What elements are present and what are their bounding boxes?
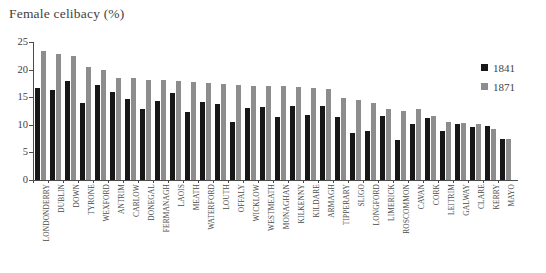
bar-cork-1841 [425,118,430,180]
x-axis-label: KILKENNY [297,184,306,223]
bar-cork-1871 [431,116,436,180]
bar-kerry-1871 [491,129,496,180]
bar-leitrim-1841 [440,131,445,180]
legend-swatch-icon [481,64,488,71]
x-axis-label-text: ANTRIM [116,184,127,214]
plot-area [33,42,513,180]
x-axis-label-text: MEATH [191,184,202,210]
bar-roscommon-1871 [401,111,406,180]
bar-kilkenny-1871 [296,87,301,180]
bar-tyrone-1871 [86,67,91,180]
x-axis-label-text: WESTMEATH [266,184,277,231]
x-tick-mark [168,180,169,183]
bar-monaghan-1841 [275,117,280,180]
x-axis-label: ROSCOMMON [402,184,411,234]
bar-tyrone-1841 [80,103,85,180]
bar-louth-1871 [221,84,226,180]
x-tick-mark [378,180,379,183]
x-axis-label-text: LONGFORD [371,184,382,225]
bar-dublin-1871 [56,54,61,180]
bar-group [275,42,290,180]
x-axis-label-text: OFFALY [236,184,247,212]
bar-dublin-1841 [50,90,55,180]
x-axis-label: WICKLOW [252,184,261,222]
x-axis-label-text: MONAGHAN [281,184,292,229]
bar-londonderry-1871 [41,51,46,180]
x-tick-mark [228,180,229,183]
bar-group [185,42,200,180]
x-tick-mark [408,180,409,183]
bar-sligo-1841 [350,133,355,180]
bar-group [365,42,380,180]
bar-group [170,42,185,180]
bar-group [80,42,95,180]
bar-group [350,42,365,180]
bar-group [380,42,395,180]
bar-monaghan-1871 [281,86,286,180]
x-axis-label: ARMAGH [327,184,336,218]
bar-carlow-1871 [131,78,136,180]
bar-limerick-1871 [386,109,391,180]
y-tick-label: 15 [18,91,29,102]
bar-roscommon-1841 [395,140,400,180]
x-axis-line [33,180,518,181]
x-tick-mark [198,180,199,183]
x-axis-label: DONEGAL [147,184,156,221]
bar-longford-1841 [365,131,370,180]
x-axis-label: WATERFORD [207,184,216,230]
bar-group [455,42,470,180]
bar-kerry-1841 [485,126,490,180]
bar-kildare-1841 [305,115,310,180]
x-axis-label: OFFALY [237,184,246,212]
bar-armagh-1871 [326,89,331,180]
x-axis-label: LONDONDERRY [42,184,51,242]
bar-group [50,42,65,180]
legend-item-1871[interactable]: 1871 [481,79,515,94]
bar-clare-1841 [470,127,475,180]
legend-item-1841[interactable]: 1841 [481,60,515,75]
bar-down-1871 [71,56,76,180]
x-tick-mark [123,180,124,183]
x-axis-label: FERMANAGH [162,184,171,232]
x-tick-mark [108,180,109,183]
x-axis-label-text: ARMAGH [326,184,337,218]
bar-sligo-1871 [356,100,361,180]
bar-kilkenny-1841 [290,106,295,180]
x-axis-label: CARLOW [132,184,141,217]
bar-meath-1841 [185,112,190,180]
x-axis-label-text: LAOIS [176,184,187,207]
x-axis-label-text: LOUTH [221,184,232,210]
bar-cavan-1871 [416,109,421,180]
x-tick-mark [183,180,184,183]
chart-container: Female celibacy (%) 0510152025 LONDONDER… [0,0,546,273]
x-axis-label: CORK [432,184,441,205]
x-axis-label-text: KERRY [491,184,502,209]
bar-down-1841 [65,81,70,180]
bar-group [305,42,320,180]
x-axis-label: LAOIS [177,184,186,207]
x-tick-mark [258,180,259,183]
x-axis-label: LEITRIM [447,184,456,215]
bar-waterford-1841 [200,102,205,180]
x-axis-label-text: FERMANAGH [161,184,172,232]
bar-group [200,42,215,180]
bar-limerick-1841 [380,116,385,180]
bar-tipperary-1841 [335,117,340,180]
bar-group [35,42,50,180]
x-axis-label-text: DONEGAL [146,184,157,221]
y-tick-label: 0 [23,174,28,185]
x-axis-label-text: CAVAN [416,184,427,209]
bar-antrim-1841 [110,92,115,180]
bar-donegal-1841 [140,109,145,180]
y-tick-label: 25 [18,36,29,47]
x-axis-label-text: KILKENNY [296,184,307,223]
bar-laois-1871 [176,81,181,180]
bar-offaly-1871 [236,85,241,180]
x-axis-label: KILDARE [312,184,321,217]
x-tick-mark [498,180,499,183]
x-axis-label: CLARE [477,184,486,209]
x-axis-label: ANTRIM [117,184,126,214]
bar-group [140,42,155,180]
x-axis-label: LOUTH [222,184,231,210]
bar-wicklow-1841 [245,108,250,180]
